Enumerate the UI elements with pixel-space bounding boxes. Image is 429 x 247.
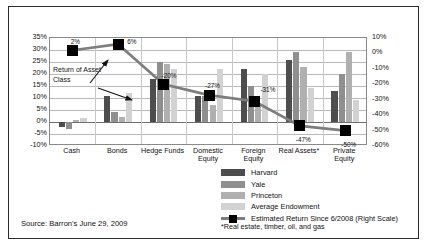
annotation-line-1: Return of Asset (53, 65, 101, 74)
source-text: Source: Barron's June 29, 2009 (21, 219, 128, 228)
annotation-line-2: Class (53, 75, 71, 84)
x-axis-label: Cash (49, 147, 94, 155)
left-axis-tick: 30% (11, 45, 47, 52)
left-axis-tick: 5% (11, 105, 47, 112)
left-axis: 35%30%25%20%15%10%5%0%-5%-10% (9, 37, 47, 145)
legend-label: Harvard (251, 168, 277, 177)
legend-color-swatch (221, 192, 245, 199)
right-axis-tick: -10% (368, 64, 406, 71)
left-axis-tick: 25% (11, 57, 47, 64)
right-axis-tick: -30% (368, 95, 406, 102)
chart-frame: 35%30%25%20%15%10%5%0%-5%-10% 10%0%-10%-… (8, 6, 419, 239)
right-axis-tick: 10% (368, 33, 406, 40)
annotation-arrows-svg (50, 38, 368, 146)
x-axis-label: PrivateEquity (322, 147, 367, 164)
right-axis-tick: -60% (368, 141, 406, 148)
legend-item: Harvard (221, 167, 421, 178)
footnote-text: *Real estate, timber, oil, and gas (221, 222, 324, 231)
right-axis: 10%0%-10%-20%-30%-40%-50%-60% (368, 37, 418, 145)
right-axis-tick: 0% (368, 48, 406, 55)
legend-label: Princeton (251, 191, 282, 200)
chart-legend: HarvardYalePrincetonAverage EndowmentEst… (221, 167, 421, 224)
left-axis-tick: 20% (11, 69, 47, 76)
legend-color-swatch (221, 203, 245, 210)
right-axis-tick: -20% (368, 79, 406, 86)
legend-item: Princeton (221, 190, 421, 201)
legend-color-swatch (221, 169, 245, 176)
left-axis-tick: 15% (11, 81, 47, 88)
legend-line-swatch (221, 215, 245, 222)
x-axis-label: Bonds (94, 147, 139, 155)
right-axis-tick: -50% (368, 126, 406, 133)
legend-item: Yale (221, 178, 421, 189)
left-axis-tick: 10% (11, 93, 47, 100)
left-axis-tick: 35% (11, 33, 47, 40)
plot-area: 2%6%-20%-27%-31%-47%-50% (49, 37, 367, 145)
left-axis-tick: -5% (11, 129, 47, 136)
x-axis-label: Real Assets* (276, 147, 321, 155)
x-axis-label: ForeignEquity (231, 147, 276, 164)
legend-label: Average Endowment (251, 202, 319, 211)
legend-color-swatch (221, 181, 245, 188)
right-axis-tick: -40% (368, 110, 406, 117)
legend-item: Average Endowment (221, 201, 421, 212)
legend-label: Yale (251, 180, 265, 189)
x-axis-label: DomesticEquity (185, 147, 230, 164)
left-axis-tick: -10% (11, 141, 47, 148)
x-axis-label: Hedge Funds (140, 147, 185, 155)
left-axis-tick: 0% (11, 117, 47, 124)
